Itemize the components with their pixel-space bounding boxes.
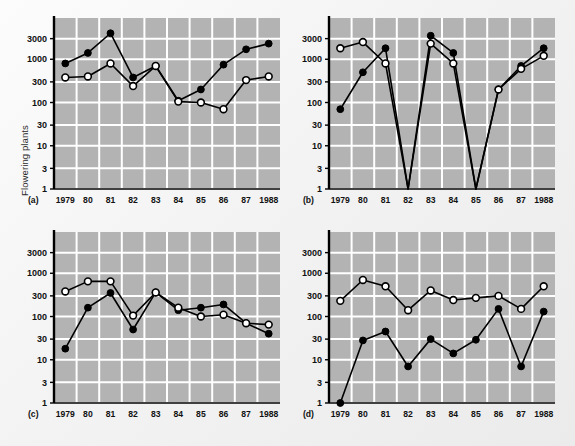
- y-tick-label: 10: [37, 355, 47, 365]
- panel-letter: (b): [303, 195, 314, 205]
- x-tick-label: 85: [196, 409, 206, 419]
- data-point-filled-circle: [85, 304, 92, 311]
- data-point-open-circle: [427, 40, 434, 47]
- data-point-filled-circle: [337, 106, 344, 113]
- x-tick-label: 84: [174, 195, 184, 205]
- data-point-filled-circle: [243, 46, 250, 53]
- data-point-open-circle: [265, 73, 272, 80]
- y-tick-label: 3: [317, 378, 322, 388]
- chart-panel-d: 1310301003001000300019798081828384858687…: [289, 224, 561, 429]
- data-point-open-circle: [265, 321, 272, 328]
- data-point-open-circle: [107, 278, 114, 285]
- x-tick-label: 1979: [331, 195, 350, 205]
- data-point-open-circle: [427, 287, 434, 294]
- data-point-open-circle: [405, 307, 412, 314]
- y-tick-label: 300: [32, 291, 47, 301]
- x-tick-label: 84: [449, 195, 459, 205]
- x-tick-label: 87: [516, 409, 526, 419]
- plot-svg: 1310301003001000300019798081828384858687…: [14, 10, 286, 215]
- data-point-filled-circle: [198, 86, 205, 93]
- data-point-filled-circle: [518, 363, 525, 370]
- x-tick-label: 83: [151, 409, 161, 419]
- y-tick-label: 100: [307, 98, 322, 108]
- data-point-filled-circle: [427, 32, 434, 39]
- y-tick-label: 1: [42, 398, 47, 408]
- panel-letter: (d): [303, 409, 314, 419]
- data-point-open-circle: [175, 98, 182, 105]
- x-tick-label: 1988: [534, 195, 553, 205]
- x-tick-label: 83: [151, 195, 161, 205]
- y-tick-label: 10: [312, 355, 322, 365]
- y-tick-label: 10: [312, 141, 322, 151]
- panel-letter: (a): [28, 195, 39, 205]
- x-tick-label: 85: [471, 409, 481, 419]
- y-tick-label: 1: [42, 184, 47, 194]
- data-point-open-circle: [62, 74, 69, 81]
- panel-letter: (c): [28, 409, 39, 419]
- figure-canvas: Flowering plants 13103010030010003000197…: [0, 0, 575, 446]
- x-tick-label: 80: [83, 409, 93, 419]
- data-point-filled-circle: [405, 363, 412, 370]
- y-tick-label: 30: [312, 120, 322, 130]
- data-point-filled-circle: [382, 328, 389, 335]
- y-tick-label: 1000: [302, 268, 322, 278]
- data-point-open-circle: [337, 45, 344, 52]
- x-tick-label: 86: [219, 409, 229, 419]
- data-point-filled-circle: [360, 337, 367, 344]
- x-tick-label: 82: [128, 409, 138, 419]
- data-point-filled-circle: [540, 308, 547, 315]
- data-point-open-circle: [175, 304, 182, 311]
- data-point-open-circle: [518, 305, 525, 312]
- data-point-open-circle: [495, 292, 502, 299]
- data-point-filled-circle: [450, 350, 457, 357]
- data-point-filled-circle: [220, 301, 227, 308]
- data-point-filled-circle: [107, 30, 114, 37]
- x-tick-label: 80: [83, 195, 93, 205]
- data-point-open-circle: [337, 297, 344, 304]
- data-point-open-circle: [450, 60, 457, 67]
- x-tick-label: 87: [241, 409, 251, 419]
- x-tick-label: 83: [426, 409, 436, 419]
- data-point-filled-circle: [85, 50, 92, 57]
- data-point-open-circle: [220, 311, 227, 318]
- y-tick-label: 1000: [27, 54, 47, 64]
- y-tick-label: 3: [42, 164, 47, 174]
- plot-svg: 1310301003001000300019798081828384858687…: [289, 224, 561, 429]
- y-tick-label: 300: [32, 77, 47, 87]
- data-point-filled-circle: [62, 60, 69, 67]
- x-tick-label: 83: [426, 195, 436, 205]
- y-tick-label: 3000: [27, 248, 47, 258]
- data-point-open-circle: [518, 65, 525, 72]
- x-tick-label: 82: [128, 195, 138, 205]
- y-tick-label: 3: [42, 378, 47, 388]
- y-tick-label: 1000: [302, 54, 322, 64]
- x-tick-label: 82: [403, 195, 413, 205]
- y-tick-label: 30: [312, 334, 322, 344]
- data-point-filled-circle: [62, 345, 69, 352]
- x-tick-label: 81: [381, 195, 391, 205]
- data-point-open-circle: [130, 83, 137, 90]
- data-point-open-circle: [85, 278, 92, 285]
- data-point-filled-circle: [450, 50, 457, 57]
- data-point-open-circle: [85, 73, 92, 80]
- data-point-open-circle: [360, 277, 367, 284]
- x-tick-label: 81: [106, 409, 116, 419]
- x-tick-label: 82: [403, 409, 413, 419]
- chart-panel-a: 1310301003001000300019798081828384858687…: [14, 10, 286, 215]
- x-tick-label: 1988: [534, 409, 553, 419]
- x-tick-label: 1988: [259, 409, 278, 419]
- chart-panel-b: 1310301003001000300019798081828384858687…: [289, 10, 561, 215]
- data-point-filled-circle: [265, 40, 272, 47]
- data-point-filled-circle: [130, 326, 137, 333]
- y-tick-label: 300: [307, 77, 322, 87]
- chart-panel-c: 1310301003001000300019798081828384858687…: [14, 224, 286, 429]
- y-tick-label: 1: [317, 184, 322, 194]
- data-point-filled-circle: [473, 336, 480, 343]
- data-point-open-circle: [243, 77, 250, 84]
- data-point-open-circle: [243, 320, 250, 327]
- data-point-open-circle: [62, 288, 69, 295]
- x-tick-label: 80: [358, 195, 368, 205]
- x-tick-label: 81: [106, 195, 116, 205]
- data-point-filled-circle: [198, 304, 205, 311]
- data-point-open-circle: [495, 86, 502, 93]
